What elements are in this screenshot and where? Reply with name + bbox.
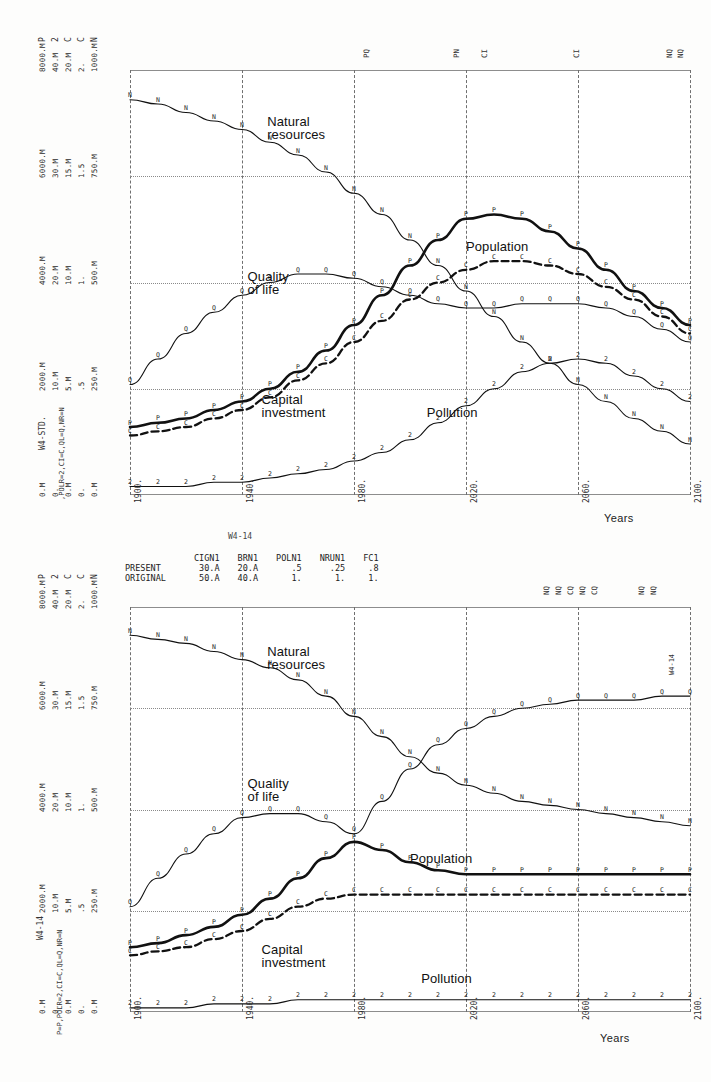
y-tick-label: 8000.M [38, 580, 47, 609]
plot-glyph: C [324, 355, 328, 363]
x-tick-label: 1900. [134, 479, 143, 503]
y-tick-label: 1. [77, 275, 86, 285]
plot-glyph: P [576, 866, 580, 874]
mode-mark: CI [480, 49, 489, 58]
param-column-header: BRN1 [220, 553, 258, 563]
plot-glyph: P [548, 866, 552, 874]
plot-glyph: P [520, 866, 524, 874]
plot-glyph: P [268, 890, 272, 898]
mode-mark: NQ [649, 586, 658, 595]
mode-mark: NQ [554, 586, 563, 595]
param-value: .25 [302, 563, 346, 573]
y-tick-label: 250.M [90, 367, 99, 391]
plot-glyph: C [296, 898, 300, 906]
y-tick-label: 5.M [64, 898, 73, 912]
plot-glyph: 2 [156, 478, 160, 486]
y-tick-label: 1000.M [90, 580, 99, 609]
plot-glyph: P [464, 210, 468, 218]
plot-area-top: NNNNNNNNNNNNNNNNNNNNNPPPPPPPPPPPPPPPPPPP… [130, 70, 690, 495]
plot-glyph: Q [604, 300, 608, 308]
mode-mark: NQ [542, 586, 551, 595]
plot-glyph: 2 [324, 461, 328, 469]
plot-glyph: P [296, 870, 300, 878]
x-tick-label: 2100. [694, 996, 703, 1020]
param-value: 20.A [220, 563, 258, 573]
y-tick-label: 6000.M [38, 149, 47, 178]
plot-glyph: 2 [520, 991, 524, 999]
plot-glyph: N [464, 283, 468, 291]
plot-glyph: 2 [492, 380, 496, 388]
plot-glyph: P [296, 363, 300, 371]
gridline-vertical [690, 607, 691, 1012]
plot-glyph: Q [212, 304, 216, 312]
plot-glyph: Q [520, 700, 524, 708]
plot-glyph: 2 [128, 478, 132, 486]
x-tick-label: 1940. [246, 996, 255, 1020]
plot-glyph: N [240, 651, 244, 659]
plot-glyph: P [408, 257, 412, 265]
plot-glyph: N [688, 817, 692, 825]
x-tick-label: 2060. [582, 996, 591, 1020]
plot-glyph: C [604, 886, 608, 894]
y-tick-label: 40.M [51, 53, 60, 72]
plot-glyph: C [352, 886, 356, 894]
curve-label: Pollution [427, 406, 478, 419]
plot-glyph: Q [464, 720, 468, 728]
param-value: 30.A [176, 563, 220, 573]
plot-glyph: P [184, 410, 188, 418]
plot-glyph: N [408, 232, 412, 240]
plot-glyph: N [380, 206, 384, 214]
plot-glyph: 2 [184, 478, 188, 486]
plot-glyph: C [324, 890, 328, 898]
chart-bottom: 8000.M40.M20.M2.1000.M6000.M30.M15.M1.57… [0, 545, 711, 1082]
y-tick-label: 20.M [64, 590, 73, 609]
y-tick-label: 20.M [51, 792, 60, 811]
plot-glyph: P [660, 300, 664, 308]
plot-glyph: P [520, 210, 524, 218]
y-axis-variable-letter: N [90, 37, 99, 42]
plot-glyph: 2 [548, 991, 552, 999]
plot-glyph: P [660, 866, 664, 874]
plot-glyph: 2 [520, 363, 524, 371]
plot-glyph: P [492, 206, 496, 214]
y-tick-label: 0. [77, 1004, 86, 1014]
y-tick-label: .5 [77, 381, 86, 391]
param-table-corner [125, 553, 176, 563]
plot-glyph: Q [156, 870, 160, 878]
plot-glyph: 2 [688, 393, 692, 401]
plot-glyph: N [632, 410, 636, 418]
plot-glyph: N [576, 801, 580, 809]
y-tick-label: 1.5 [77, 164, 86, 178]
plot-glyph: Q [296, 266, 300, 274]
side-run-tag-bottom: W4-14 [668, 654, 676, 675]
y-tick-label: 1000.M [90, 43, 99, 72]
plot-glyph: N [128, 627, 132, 635]
plot-glyph: P [184, 927, 188, 935]
gridline-vertical [690, 70, 691, 495]
plot-glyph: P [156, 935, 160, 943]
y-tick-label: 0.M [38, 483, 47, 497]
plot-glyph: C [520, 886, 524, 894]
x-tick-label: 2100. [694, 479, 703, 503]
plot-glyph: P [548, 223, 552, 231]
plot-glyph: N [436, 257, 440, 265]
plot-glyph: 2 [240, 995, 244, 1003]
plot-glyph: N [520, 334, 524, 342]
plot-glyph: C [408, 886, 412, 894]
param-table-row: ORIGINAL50.A40.A1.1.1. [125, 573, 379, 583]
y-tick-label: 30.M [51, 691, 60, 710]
plot-glyph: C [128, 427, 132, 435]
x-tick-label: 2060. [582, 479, 591, 503]
plot-glyph: Q [128, 898, 132, 906]
plot-glyph: 2 [296, 991, 300, 999]
plot-glyph: N [660, 813, 664, 821]
plot-glyph: 2 [464, 991, 468, 999]
plot-glyph: 2 [632, 991, 636, 999]
y-tick-label: .5 [77, 903, 86, 913]
plot-glyph: N [408, 748, 412, 756]
plot-glyph: Q [660, 321, 664, 329]
plot-glyph: Q [408, 761, 412, 769]
plot-glyph: N [352, 708, 356, 716]
plot-glyph: 2 [436, 991, 440, 999]
plot-glyph: P [352, 317, 356, 325]
